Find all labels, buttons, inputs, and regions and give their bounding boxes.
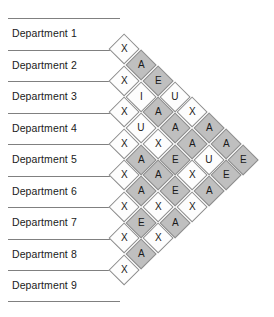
relationship-rating: X (121, 76, 128, 86)
relationship-rating: X (121, 265, 128, 275)
relationship-lattice: XXXXXXXXAIUAAEAEAXAXXUAEEAXAXXAUAAEE (0, 0, 274, 317)
relationship-rating: U (206, 155, 213, 165)
relationship-rating: X (155, 233, 162, 243)
relationship-rating: X (189, 107, 196, 117)
relationship-rating: X (121, 170, 128, 180)
relationship-rating: A (138, 249, 145, 259)
relationship-rating: E (155, 76, 162, 86)
relationship-rating: U (172, 92, 179, 102)
relationship-rating: A (172, 218, 179, 228)
relationship-rating: X (155, 202, 162, 212)
relationship-rating: E (240, 155, 247, 165)
relationship-rating: X (121, 233, 128, 243)
relationship-rating: U (138, 123, 145, 133)
relationship-rating: A (155, 170, 162, 180)
relationship-rating: E (223, 170, 230, 180)
relationship-rating: A (189, 139, 196, 149)
relationship-rating: E (138, 218, 145, 228)
relationship-rating: X (121, 139, 128, 149)
relationship-rating: X (121, 202, 128, 212)
relationship-rating: X (155, 139, 162, 149)
relationship-rating: X (189, 202, 196, 212)
relationship-rating: I (140, 92, 143, 102)
relationship-rating: A (138, 186, 145, 196)
relationship-rating: E (172, 155, 179, 165)
relationship-rating: E (172, 186, 179, 196)
relationship-rating: A (206, 123, 213, 133)
relationship-rating: A (223, 139, 230, 149)
relationship-rating: A (138, 155, 145, 165)
relationship-rating: A (155, 107, 162, 117)
relationship-rating: A (172, 123, 179, 133)
relationship-rating: X (189, 170, 196, 180)
relationship-rating: A (138, 60, 145, 70)
relationship-rating: X (121, 107, 128, 117)
rel-chart: Department 1Department 2Department 3Depa… (0, 0, 274, 317)
relationship-rating: A (206, 186, 213, 196)
relationship-rating: X (121, 44, 128, 54)
